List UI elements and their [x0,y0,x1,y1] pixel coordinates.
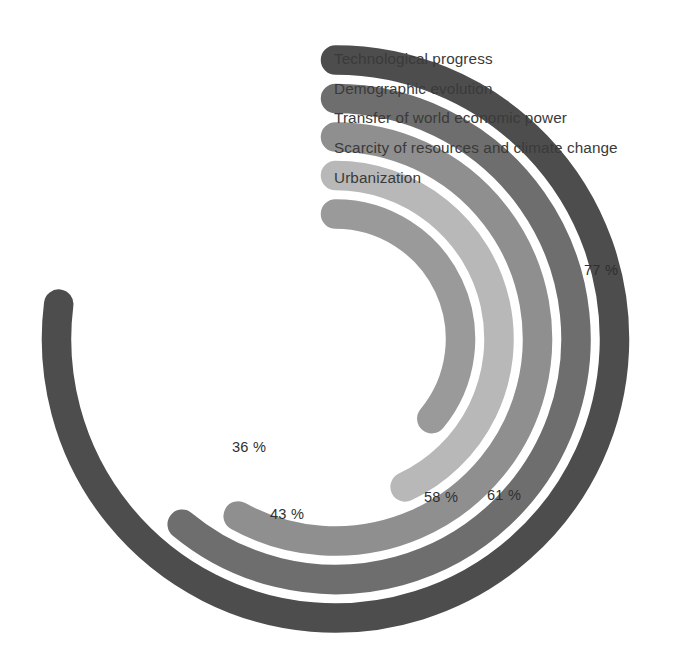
legend-item-urbanization[interactable]: Urbanization [334,162,684,192]
legend-item-demographic-evolution[interactable]: Demographic evolution [334,74,684,104]
legend-item-transfer-of-world-economic-power[interactable]: Transfer of world economic power [334,103,684,133]
value-label: 36 % [232,439,266,455]
legend-item-label: Scarcity of resources and climate change [334,140,618,155]
legend-item-label: Urbanization [334,170,421,185]
value-label: 61 % [487,487,521,503]
value-label: 58 % [424,489,458,505]
legend-item-label: Transfer of world economic power [334,110,567,125]
legend-item-scarcity-of-resources-and-climate-change[interactable]: Scarcity of resources and climate change [334,133,684,163]
legend: Technological progress Demographic evolu… [334,44,684,192]
legend-item-label: Technological progress [334,51,493,66]
radial-bar-urbanization[interactable] [336,214,461,419]
value-label: 43 % [270,506,304,522]
legend-item-technological-progress[interactable]: Technological progress [334,44,684,74]
radial-bar-chart: Technological progress Demographic evolu… [0,0,696,655]
legend-item-label: Demographic evolution [334,81,493,96]
value-label: 77 % [584,262,618,278]
